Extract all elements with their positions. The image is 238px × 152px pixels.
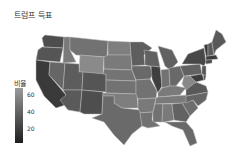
state-nd	[108, 41, 131, 55]
state-fl	[165, 122, 197, 146]
state-ia	[132, 66, 153, 80]
legend-color-bar	[15, 88, 23, 143]
state-ne	[103, 69, 136, 81]
state-pa	[180, 64, 202, 76]
legend-title: 비율	[14, 78, 26, 88]
state-in	[161, 69, 170, 88]
state-wi	[144, 50, 160, 67]
state-ks	[106, 80, 136, 94]
us-choropleth-map	[0, 0, 238, 152]
state-mi	[158, 46, 178, 70]
state-co	[82, 72, 106, 92]
state-me	[212, 30, 226, 55]
state-mt	[70, 37, 108, 57]
legend-tick-60: 60	[27, 91, 35, 98]
state-wa	[42, 35, 64, 48]
legend-tick-20: 20	[27, 125, 35, 132]
state-nm	[80, 90, 103, 114]
legend-tick-40: 40	[27, 108, 35, 115]
state-sd	[104, 55, 132, 70]
state-ms	[153, 104, 163, 122]
state-or	[36, 47, 63, 62]
state-wy	[79, 55, 104, 74]
state-ny	[182, 48, 206, 66]
